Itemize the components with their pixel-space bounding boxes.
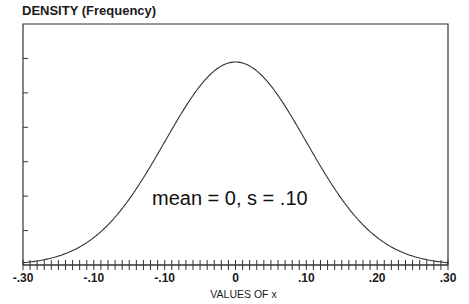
x-tick-label: 0 — [232, 271, 239, 285]
density-curve — [23, 62, 448, 263]
x-axis-label: VALUES OF x — [0, 288, 469, 300]
plot-frame — [23, 24, 448, 265]
x-tick-label: -.30 — [13, 271, 34, 285]
x-tick-label: .10 — [298, 271, 315, 285]
x-tick-label: -.10 — [154, 271, 175, 285]
annotation-text: mean = 0, s = .10 — [152, 187, 308, 210]
plot-area: -.30-.10-.100.10.20.30 — [0, 0, 469, 304]
x-tick-label: .20 — [369, 271, 386, 285]
x-tick-label: .30 — [440, 271, 457, 285]
x-tick-label: -.10 — [83, 271, 104, 285]
